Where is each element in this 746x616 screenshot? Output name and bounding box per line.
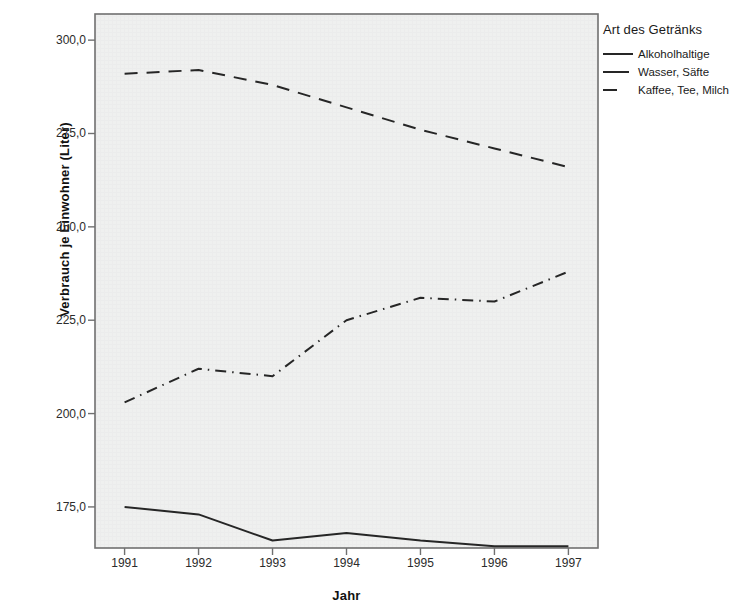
x-tick-label: 1996 <box>464 556 524 570</box>
y-tick-label: 275,0 <box>26 126 86 140</box>
y-tick-label: 175,0 <box>26 500 86 514</box>
x-tick-label: 1997 <box>538 556 598 570</box>
x-axis-ticks <box>125 548 569 555</box>
legend-label: Wasser, Säfte <box>638 66 709 78</box>
legend-title: Art des Getränks <box>603 22 746 37</box>
x-axis-title: Jahr <box>95 588 598 603</box>
legend-label: Kaffee, Tee, Milch <box>638 84 729 96</box>
x-tick-label: 1993 <box>243 556 303 570</box>
legend-swatch-dashdot-icon <box>603 66 633 78</box>
legend: Art des Getränks Alkoholhaltige Wasser, … <box>603 22 746 99</box>
x-tick-label: 1994 <box>317 556 377 570</box>
line-chart: Verbrauch je Einwohner (Liter) 175,0200,… <box>0 0 746 616</box>
plot-background <box>95 14 598 548</box>
y-tick-label: 225,0 <box>26 313 86 327</box>
legend-item-kaffee-tee-milch[interactable]: Kaffee, Tee, Milch <box>603 81 746 98</box>
legend-item-wasser-saefte[interactable]: Wasser, Säfte <box>603 63 746 80</box>
legend-item-alkoholhaltige[interactable]: Alkoholhaltige <box>603 45 746 62</box>
x-tick-label: 1995 <box>390 556 450 570</box>
y-axis-ticks <box>88 40 95 507</box>
y-tick-label: 250,0 <box>26 220 86 234</box>
legend-swatch-solid-icon <box>603 48 633 60</box>
x-tick-label: 1991 <box>95 556 155 570</box>
y-axis-tick-labels: 175,0200,0225,0250,0275,0300,0 <box>22 0 86 616</box>
legend-label: Alkoholhaltige <box>638 48 710 60</box>
y-tick-label: 200,0 <box>26 407 86 421</box>
legend-swatch-dashed-icon <box>603 84 633 96</box>
y-tick-label: 300,0 <box>26 33 86 47</box>
x-tick-label: 1992 <box>169 556 229 570</box>
